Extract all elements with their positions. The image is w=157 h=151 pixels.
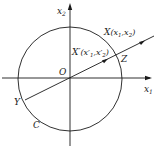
line-yx: [25, 36, 154, 100]
origin-label: O: [59, 67, 67, 77]
arrow-xprime-icon: [102, 59, 108, 64]
x2-axis-arrow-icon: [68, 3, 72, 10]
point-x-label: X(x1,x2): [103, 27, 135, 38]
diagram-canvas: x2 x1 O X(x1,x2) X′(x′1,x′2) Z Y C: [0, 0, 157, 151]
arrow-x-icon: [139, 41, 145, 46]
x1-axis-arrow-icon: [145, 76, 152, 80]
point-xprime-label: X′(x′1,x′2): [71, 47, 109, 58]
point-y-label: Y: [14, 97, 21, 107]
circle-c-label: C: [33, 120, 40, 130]
x2-axis-label: x2: [57, 6, 66, 17]
x1-axis-label: x1: [144, 84, 153, 95]
point-z-label: Z: [120, 54, 128, 64]
